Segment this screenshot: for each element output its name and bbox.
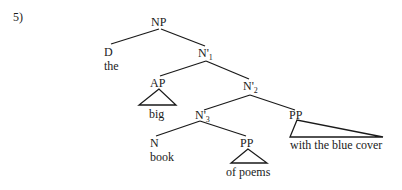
triangle-pp-low — [231, 149, 267, 163]
branch-nbar1-ap — [160, 61, 206, 76]
branch-np-d — [111, 29, 159, 44]
example-number: 5) — [13, 11, 23, 23]
node-np: NP — [151, 16, 166, 28]
node-nbar2-subscript: 2 — [254, 86, 258, 95]
node-nbar3-subscript: 3 — [206, 115, 210, 124]
branch-nbar3-n — [156, 121, 200, 136]
node-nbar1-label: N' — [198, 46, 209, 60]
node-pp-high: PP — [289, 109, 302, 121]
tree-branches — [0, 0, 402, 190]
node-nbar2: N'2 — [243, 80, 258, 94]
node-nbar3-label: N' — [195, 108, 206, 122]
node-d: D — [104, 46, 113, 58]
node-nbar1-subscript: 1 — [209, 53, 213, 62]
branch-nbar2-nbar3 — [204, 95, 250, 110]
word-the: the — [104, 60, 119, 72]
words-with-the-blue-cover: with the blue cover — [290, 139, 382, 151]
node-nbar2-label: N' — [243, 79, 254, 93]
node-pp-low: PP — [240, 137, 253, 149]
node-n: N — [150, 137, 159, 149]
word-book: book — [150, 151, 174, 163]
branch-np-nbar1 — [161, 29, 205, 46]
triangle-ap — [139, 89, 176, 105]
node-ap: AP — [150, 77, 165, 89]
word-big: big — [149, 108, 164, 120]
triangle-pp-high — [290, 120, 383, 137]
node-nbar1: N'1 — [198, 47, 213, 61]
branch-nbar1-nbar2 — [206, 61, 249, 79]
words-of-poems: of poems — [226, 166, 270, 178]
syntax-tree-diagram: 5) NP D the N'1 AP big N'2 N'3 PP with t… — [0, 0, 402, 190]
node-nbar3: N'3 — [195, 109, 210, 123]
